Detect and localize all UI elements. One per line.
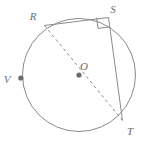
vertex-label-S: S xyxy=(110,3,116,15)
vertex-label-V: V xyxy=(4,73,12,85)
vertex-label-T: T xyxy=(127,125,134,137)
vertex-label-O: O xyxy=(80,60,88,72)
circle-geometry-svg: R S T V O xyxy=(0,0,149,143)
chord-ST-line xyxy=(109,18,123,121)
geometry-figure: R S T V O xyxy=(0,0,149,143)
vertex-label-R: R xyxy=(29,10,37,22)
center-point-dot-O xyxy=(76,72,81,77)
point-dot-V xyxy=(18,75,23,80)
diameter-RT-dashed-line xyxy=(45,26,123,121)
